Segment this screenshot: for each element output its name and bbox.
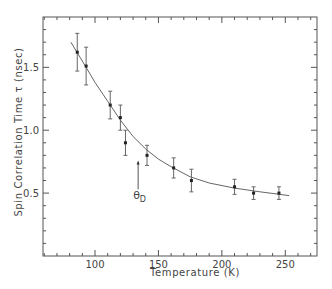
data-point: [172, 158, 176, 178]
marker: [124, 141, 127, 144]
data-point: [118, 105, 122, 130]
theta-d-annotation: θD: [133, 160, 146, 204]
tick-labels: 1001502002500.51.01.5: [23, 62, 295, 270]
chart: 1001502002500.51.01.5 θD Temperature (K)…: [0, 0, 332, 289]
fit-line: [71, 42, 289, 195]
data-point: [84, 47, 88, 85]
data-point: [75, 33, 79, 71]
x-axis-label: Temperature (K): [149, 267, 240, 278]
axis-ticks: [43, 17, 317, 256]
marker: [146, 154, 149, 157]
data-point: [252, 187, 256, 200]
marker: [85, 65, 88, 68]
theta-d-label: θD: [133, 189, 146, 204]
data-point: [233, 179, 237, 194]
data-point: [189, 169, 193, 192]
marker: [172, 166, 175, 169]
marker: [109, 104, 112, 107]
marker: [233, 185, 236, 188]
plot-frame: [43, 17, 317, 256]
marker: [277, 192, 280, 195]
y-tick-label: 1.0: [23, 125, 39, 136]
theta-d-subscript: D: [140, 195, 146, 204]
y-tick-label: 0.5: [23, 188, 39, 199]
marker: [76, 51, 79, 54]
arrow-up-icon: [137, 160, 140, 164]
y-tick-label: 1.5: [23, 62, 39, 73]
marker: [252, 192, 255, 195]
x-tick-label: 100: [85, 259, 104, 270]
marker: [190, 179, 193, 182]
data-point: [277, 187, 281, 200]
data-point: [108, 91, 112, 119]
data-point: [123, 130, 127, 155]
x-tick-label: 250: [276, 259, 295, 270]
fit-curve: [71, 42, 289, 195]
data-points: [75, 33, 281, 199]
marker: [119, 116, 122, 119]
y-axis-label: Spin Correlation Time τ (nsec): [13, 47, 24, 216]
